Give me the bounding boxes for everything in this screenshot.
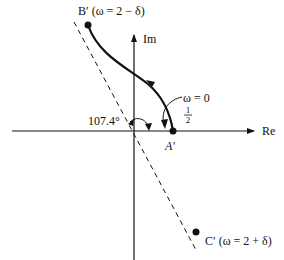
point-a-prime <box>170 128 177 135</box>
angle-start-arrow-icon <box>128 119 134 126</box>
point-c-prime <box>193 229 200 236</box>
c-prime-label: C′ (ω = 2 + δ) <box>205 234 272 248</box>
nyquist-diagram: Re Im B′ (ω = 2 − δ) A′ C′ (ω = 2 + δ) ω… <box>0 0 284 260</box>
a-prime-label: A′ <box>164 139 175 153</box>
imag-axis-label: Im <box>143 32 157 46</box>
omega-zero-label: ω = 0 <box>183 91 210 105</box>
angle-arrow-icon <box>145 123 152 131</box>
dashed-asymptote-line <box>74 22 196 250</box>
b-prime-label: B′ (ω = 2 − δ) <box>78 4 145 18</box>
half-numerator: 1 <box>186 105 191 115</box>
angle-label: 107.4° <box>88 114 120 128</box>
point-b-prime <box>85 22 92 29</box>
real-axis-label: Re <box>262 124 275 138</box>
half-denominator: 2 <box>186 115 191 125</box>
omega-zero-arrow-icon <box>161 119 168 129</box>
